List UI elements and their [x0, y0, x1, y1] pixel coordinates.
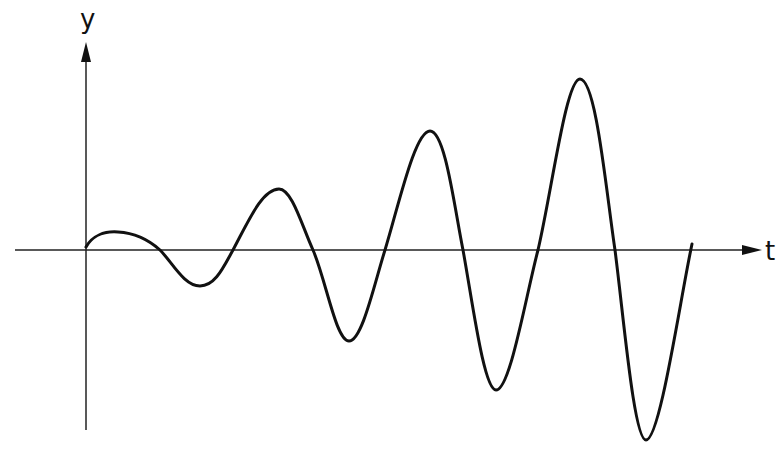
t-axis-label: t — [765, 238, 775, 264]
oscillation-curve — [86, 79, 692, 440]
y-axis-arrowhead-icon — [81, 42, 91, 62]
y-axis-label: y — [80, 6, 95, 32]
y-axis — [81, 42, 91, 430]
t-axis — [15, 245, 762, 255]
oscillation-diagram — [0, 0, 784, 453]
t-axis-arrowhead-icon — [742, 245, 762, 255]
